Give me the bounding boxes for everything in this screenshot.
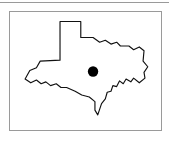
- top-horizontal-rule: [0, 2, 169, 3]
- figure-frame-box: [9, 11, 162, 131]
- texas-map-svg: [10, 12, 161, 130]
- texas-state-outline: [25, 21, 148, 114]
- location-dot-marker: [88, 66, 98, 76]
- figure-root: [0, 0, 172, 141]
